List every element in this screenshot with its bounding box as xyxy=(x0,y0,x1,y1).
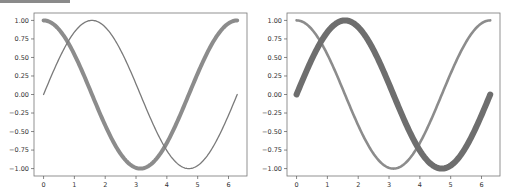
y-tick-label: 0.00 xyxy=(268,91,282,99)
y-tick-label: 0.75 xyxy=(15,35,29,43)
x-tick-label: 5 xyxy=(449,181,453,189)
y-tick-label: 0.50 xyxy=(15,54,29,62)
y-tick-label: −0.25 xyxy=(9,109,29,117)
plot-1: 01234561.000.750.500.250.00−0.25−0.50−0.… xyxy=(9,13,247,189)
y-tick-label: 0.25 xyxy=(15,72,29,80)
x-tick-label: 3 xyxy=(134,181,138,189)
y-tick-label: 0.50 xyxy=(268,54,282,62)
y-tick-label: 0.25 xyxy=(268,72,282,80)
x-tick-label: 1 xyxy=(72,181,76,189)
series-sinx xyxy=(297,20,491,168)
y-tick-label: −0.25 xyxy=(262,109,282,117)
x-tick-label: 2 xyxy=(356,181,360,189)
x-tick-label: 6 xyxy=(226,181,230,189)
x-tick-label: 6 xyxy=(479,181,483,189)
y-tick-label: −0.75 xyxy=(9,146,29,154)
x-tick-label: 5 xyxy=(196,181,200,189)
figure: 01234561.000.750.500.250.00−0.25−0.50−0.… xyxy=(0,0,507,196)
x-tick-label: 4 xyxy=(418,181,422,189)
x-tick-label: 3 xyxy=(387,181,391,189)
x-tick-label: 1 xyxy=(325,181,329,189)
x-tick-label: 4 xyxy=(165,181,169,189)
x-tick-label: 0 xyxy=(294,181,298,189)
y-tick-label: −1.00 xyxy=(262,165,282,173)
y-tick-label: 1.00 xyxy=(268,17,282,25)
y-tick-label: −0.50 xyxy=(262,128,282,136)
y-tick-label: 1.00 xyxy=(15,17,29,25)
y-tick-label: 0.00 xyxy=(15,91,29,99)
y-tick-label: −0.75 xyxy=(262,146,282,154)
x-tick-label: 0 xyxy=(41,181,45,189)
y-tick-label: −1.00 xyxy=(9,165,29,173)
y-tick-label: 0.75 xyxy=(268,35,282,43)
series-sinx xyxy=(44,20,238,168)
x-tick-label: 2 xyxy=(103,181,107,189)
y-tick-label: −0.50 xyxy=(9,128,29,136)
plot-2: 01234561.000.750.500.250.00−0.25−0.50−0.… xyxy=(262,13,500,189)
